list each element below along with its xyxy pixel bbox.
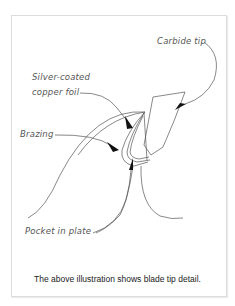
- arrowheads: [107, 103, 186, 170]
- label-carbide-tip: Carbide tip: [157, 36, 206, 46]
- label-silver-foil-line1: Silver-coated: [32, 72, 90, 82]
- gullet-right: [141, 166, 183, 219]
- label-silver-foil-line2: copper foil: [32, 87, 79, 97]
- figure-caption: The above illustration shows blade tip d…: [0, 274, 235, 284]
- carbide-tip-shape: [144, 92, 185, 155]
- label-brazing: Brazing: [20, 129, 54, 139]
- label-pocket-in-plate: Pocket in plate: [25, 226, 91, 236]
- leader-pocket: [93, 170, 131, 233]
- plate-inner-line: [144, 113, 147, 160]
- leader-carbide: [185, 42, 216, 104]
- arrow-foil-icon: [125, 116, 133, 129]
- arrow-carbide-icon: [175, 103, 186, 110]
- gullet-left: [96, 166, 133, 233]
- arrow-brazing-icon: [107, 142, 119, 152]
- leader-foil: [80, 93, 128, 122]
- foil-line-2: [130, 116, 149, 159]
- leader-brazing: [55, 135, 112, 146]
